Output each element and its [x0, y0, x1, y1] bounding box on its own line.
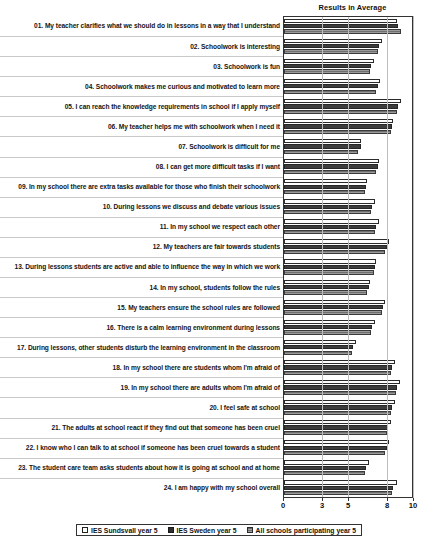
- category-label: 04. Schoolwork makes me curious and moti…: [85, 83, 280, 91]
- chart-row: 05. I can reach the knowledge requiremen…: [0, 96, 413, 116]
- chart-row: 09. In my school there are extra tasks a…: [0, 177, 413, 197]
- chart-row: 01. My teacher clarifies what we should …: [0, 16, 413, 36]
- bar-group: [283, 157, 413, 177]
- category-label: 16. There is a calm learning environment…: [106, 324, 280, 332]
- chart-row: 07. Schoolwork is difficult for me: [0, 136, 413, 156]
- bar-series-0: [284, 280, 370, 284]
- chart-row: 20. I feel safe at school: [0, 397, 413, 417]
- bar-group: [283, 357, 413, 377]
- legend-item-1[interactable]: IES Sweden year 5: [168, 527, 237, 534]
- bar-group: [283, 76, 413, 96]
- legend-swatch-icon: [82, 527, 88, 533]
- category-label-cell: 19. In my school there are adults whom I…: [0, 377, 283, 397]
- legend-label: IES Sundsvall year 5: [91, 527, 158, 534]
- legend-label: IES Sweden year 5: [177, 527, 237, 534]
- bar-series-0: [284, 59, 374, 63]
- category-label-cell: 15. My teachers ensure the school rules …: [0, 297, 283, 317]
- category-label: 18. In my school there are students whom…: [113, 364, 280, 372]
- bar-series-2: [284, 270, 374, 274]
- bar-series-2: [284, 90, 376, 94]
- category-label-cell: 01. My teacher clarifies what we should …: [0, 16, 283, 36]
- bar-series-1: [284, 205, 372, 209]
- bar-series-1: [284, 265, 375, 269]
- bar-group: [283, 16, 413, 36]
- chart-row: 13. During lessons students are active a…: [0, 257, 413, 277]
- bar-series-0: [284, 420, 391, 424]
- bar-group: [283, 478, 413, 498]
- category-label-cell: 14. In my school, students follow the ru…: [0, 277, 283, 297]
- chart-row: 16. There is a calm learning environment…: [0, 317, 413, 337]
- bar-series-2: [284, 150, 358, 154]
- category-label: 17. During lessons, other students distu…: [17, 344, 280, 352]
- bar-group: [283, 277, 413, 297]
- category-label: 02. Schoolwork is interesting: [190, 43, 280, 51]
- bar-group: [283, 96, 413, 116]
- chart-row: 24. I am happy with my school overall: [0, 478, 413, 498]
- chart-row: 15. My teachers ensure the school rules …: [0, 297, 413, 317]
- bar-series-1: [284, 64, 371, 68]
- bar-series-2: [284, 110, 397, 114]
- chart-row: 11. In my school we respect each other: [0, 217, 413, 237]
- bar-series-1: [284, 124, 392, 128]
- bar-series-1: [284, 385, 397, 389]
- bar-group: [283, 257, 413, 277]
- bar-series-0: [284, 340, 356, 344]
- category-label-cell: 07. Schoolwork is difficult for me: [0, 136, 283, 156]
- bar-group: [283, 297, 413, 317]
- category-label-cell: 02. Schoolwork is interesting: [0, 36, 283, 56]
- chart-row: 14. In my school, students follow the ru…: [0, 277, 413, 297]
- chart-row: 22. I know who I can talk to at school i…: [0, 438, 413, 458]
- bar-group: [283, 438, 413, 458]
- bar-group: [283, 317, 413, 337]
- category-label-cell: 20. I feel safe at school: [0, 397, 283, 417]
- bar-series-0: [284, 460, 369, 464]
- category-label: 24. I am happy with my school overall: [164, 484, 280, 492]
- legend-item-0[interactable]: IES Sundsvall year 5: [82, 527, 158, 534]
- bar-series-0: [284, 360, 395, 364]
- bar-series-1: [284, 84, 378, 88]
- category-label: 01. My teacher clarifies what we should …: [34, 22, 280, 30]
- chart-row: 21. The adults at school react if they f…: [0, 418, 413, 438]
- bar-series-0: [284, 219, 379, 223]
- bar-series-0: [284, 199, 375, 203]
- category-label: 14. In my school, students follow the ru…: [150, 284, 280, 292]
- x-tick-label: 0: [281, 501, 285, 510]
- chart-title: Results in Average: [284, 3, 421, 12]
- chart-row: 17. During lessons, other students distu…: [0, 337, 413, 357]
- bar-series-0: [284, 380, 400, 384]
- bar-series-0: [284, 179, 367, 183]
- bar-series-1: [284, 245, 387, 249]
- bar-series-0: [284, 440, 389, 444]
- category-label: 10. During lessons we discuss and debate…: [103, 203, 280, 211]
- bar-series-0: [284, 19, 397, 23]
- bar-group: [283, 217, 413, 237]
- category-rows: 01. My teacher clarifies what we should …: [0, 16, 413, 498]
- bar-series-0: [284, 99, 401, 103]
- bar-series-2: [284, 69, 370, 73]
- bar-series-1: [284, 144, 361, 148]
- bar-group: [283, 197, 413, 217]
- category-label: 13. During lessons students are active a…: [15, 263, 280, 271]
- bar-series-1: [284, 164, 378, 168]
- legend-swatch-icon: [247, 527, 253, 533]
- bar-series-2: [284, 290, 367, 294]
- legend-item-2[interactable]: All schools participating year 5: [247, 527, 356, 534]
- chart-row: 02. Schoolwork is interesting: [0, 36, 413, 56]
- bar-series-1: [284, 305, 383, 309]
- category-label-cell: 17. During lessons, other students distu…: [0, 337, 283, 357]
- bar-group: [283, 377, 413, 397]
- bar-series-2: [284, 491, 392, 495]
- legend-swatch-icon: [168, 527, 174, 533]
- category-label: 12. My teachers are fair towards student…: [153, 243, 280, 251]
- bar-group: [283, 56, 413, 76]
- bar-series-1: [284, 466, 366, 470]
- bar-series-2: [284, 230, 375, 234]
- chart-legend: IES Sundsvall year 5IES Sweden year 5All…: [76, 524, 362, 536]
- category-label: 03. Schoolwork is fun: [213, 63, 280, 71]
- bar-series-1: [284, 185, 366, 189]
- bar-series-2: [284, 471, 365, 475]
- category-label-cell: 09. In my school there are extra tasks a…: [0, 177, 283, 197]
- bar-series-1: [284, 446, 387, 450]
- bar-series-2: [284, 210, 371, 214]
- bar-series-2: [284, 310, 382, 314]
